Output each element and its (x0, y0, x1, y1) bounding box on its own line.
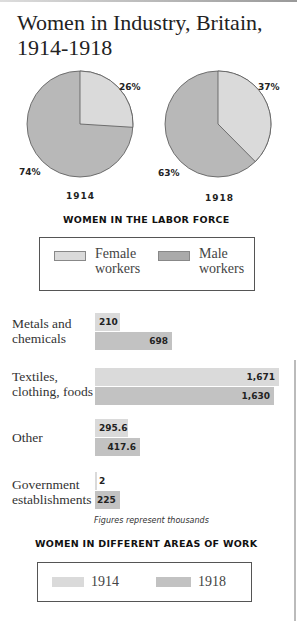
pie-1918-male-label: 63% (158, 168, 180, 178)
category-textiles-label: Textiles, clothing, foods (12, 369, 93, 399)
metals-line-2: chemicals (12, 331, 72, 346)
right-rule (294, 360, 296, 621)
labor-force-legend: Female workers Male workers (39, 237, 255, 291)
swatch-1914 (52, 577, 84, 587)
government-line-2: establishments (12, 492, 92, 507)
page-title: Women in Industry, Britain, 1914-1918 (17, 10, 263, 60)
areas-of-work-legend: 1914 1918 (37, 562, 252, 602)
metals-line-1: Metals and (12, 316, 72, 331)
legend-1918-label: 1918 (198, 574, 226, 589)
bar-metals-1918: 698 (95, 332, 172, 350)
male-legend-label: Male workers (199, 246, 244, 276)
bar-metals-1914: 210 (95, 313, 120, 331)
bar-government-1914-value: 2 (96, 472, 116, 490)
labor-force-heading: WOMEN IN THE LABOR FORCE (63, 214, 230, 225)
male-swatch (158, 251, 190, 261)
female-legend-label: Female workers (95, 246, 140, 276)
bar-textiles-1914: 1,671 (95, 368, 279, 386)
male-legend-line-1: Male (199, 246, 244, 261)
pie-1914-year: 1914 (66, 191, 95, 201)
title-line-1: Women in Industry, Britain, (17, 10, 263, 35)
units-note: Figures represent thousands (94, 516, 209, 525)
pie-chart-1914 (26, 70, 134, 178)
textiles-line-1: Textiles, (12, 369, 93, 384)
pie-1918-female-label: 37% (258, 82, 280, 92)
female-legend-line-2: workers (95, 261, 140, 276)
other-line-1: Other (12, 430, 43, 445)
bar-government-1918: 225 (95, 491, 120, 509)
bar-other-1914: 295.6 (95, 419, 128, 437)
swatch-1918 (156, 577, 191, 587)
title-line-2: 1914-1918 (17, 35, 263, 60)
pie-chart-1918 (164, 70, 272, 178)
top-rule (0, 0, 297, 2)
bar-other-1918: 417.6 (95, 438, 140, 456)
textiles-line-2: clothing, foods (12, 384, 93, 399)
category-other-label: Other (12, 430, 43, 445)
pie-1918-year: 1918 (205, 193, 234, 203)
government-line-1: Government (12, 477, 92, 492)
pie-1914-male-label: 74% (19, 167, 41, 177)
pie-1914-female-label: 26% (119, 82, 141, 92)
female-legend-line-1: Female (95, 246, 140, 261)
male-legend-line-2: workers (199, 261, 244, 276)
female-swatch (54, 251, 86, 261)
category-metals-label: Metals and chemicals (12, 316, 72, 346)
bar-textiles-1918: 1,630 (95, 387, 274, 405)
areas-of-work-heading: WOMEN IN DIFFERENT AREAS OF WORK (35, 538, 257, 549)
legend-1914-label: 1914 (91, 574, 119, 589)
category-government-label: Government establishments (12, 477, 92, 507)
